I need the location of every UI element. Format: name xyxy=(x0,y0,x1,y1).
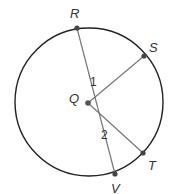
label-v: V xyxy=(111,181,121,194)
point-v xyxy=(112,171,117,176)
segment-qt xyxy=(88,103,143,153)
angle-2-label: 2 xyxy=(101,128,108,142)
label-s: S xyxy=(149,40,158,55)
label-r: R xyxy=(70,6,79,21)
label-t: T xyxy=(148,158,157,173)
segment-rv xyxy=(77,28,115,174)
point-q xyxy=(85,100,91,106)
point-r xyxy=(74,25,79,30)
point-t xyxy=(140,150,145,155)
label-q: Q xyxy=(69,91,79,106)
angle-1-label: 1 xyxy=(90,75,97,89)
circle-diagram: R S Q T V 1 2 xyxy=(0,0,172,194)
point-s xyxy=(141,53,146,58)
